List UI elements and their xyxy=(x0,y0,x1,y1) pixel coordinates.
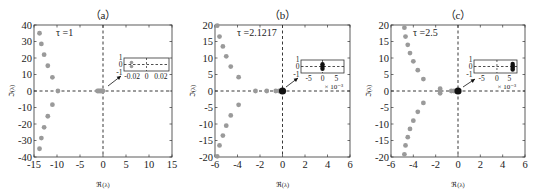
eigenvalue-point xyxy=(45,114,50,119)
eigenvalue-point xyxy=(37,31,42,36)
tau-annotation: τ =1 xyxy=(56,27,73,38)
y-tick-label: 0 xyxy=(384,86,389,97)
eigenvalue-point xyxy=(236,75,241,80)
inset-y-tick-label: -1 xyxy=(116,68,122,77)
y-tick-label: 0 xyxy=(208,86,213,97)
x-tick-label: 6 xyxy=(347,159,352,170)
y-axis-label: ℑ(λ) xyxy=(8,85,16,97)
eigenvalue-point xyxy=(220,133,225,138)
eigenvalue-point xyxy=(101,89,106,94)
inset-point xyxy=(130,65,134,69)
y-tick-label: 10 xyxy=(379,53,390,64)
eigenvalue-point xyxy=(264,89,269,94)
x-tick-label: 2 xyxy=(478,159,483,170)
tau-annotation: τ =2.1217 xyxy=(237,27,277,38)
y-tick-label: 10 xyxy=(22,69,33,80)
inset-x-tick-label: 0.02 xyxy=(154,72,167,81)
x-tick-label: 10 xyxy=(144,159,155,170)
eigenvalue-point xyxy=(411,118,416,123)
panel-label: （a） xyxy=(90,9,117,21)
x-tick-label: -4 xyxy=(409,159,418,170)
y-axis-label: ℑ(λ) xyxy=(365,85,373,97)
y-tick-label: 5 xyxy=(384,69,389,80)
eigenvalue-point xyxy=(56,89,61,94)
eigenvalue-point xyxy=(253,89,258,94)
eigenvalue-point xyxy=(228,64,233,69)
x-axis-label: ℜ(λ) xyxy=(276,181,289,189)
eigenvalue-point xyxy=(405,135,410,140)
eigenvalue-point xyxy=(217,143,222,148)
eigenvalue-point xyxy=(42,52,47,57)
x-tick-label: -5 xyxy=(76,159,85,170)
eigenvalue-point xyxy=(217,34,222,39)
eigenvalue-point xyxy=(39,42,44,47)
inset-exponent-label: × 10⁻³ xyxy=(325,83,344,91)
eigenvalue-point xyxy=(415,109,420,114)
eigenvalue-point xyxy=(220,44,225,49)
y-tick-label: -15 xyxy=(199,135,213,146)
inset-y-tick-label: -1 xyxy=(293,70,299,79)
eigenvalue-point xyxy=(50,102,55,107)
arrowhead-icon xyxy=(471,79,475,83)
chart-panel-b: -6-4-20246-20-15-10-505101520（b）τ =2.121… xyxy=(189,9,353,189)
y-tick-label: -30 xyxy=(18,135,32,146)
inset-y-tick-label: -1 xyxy=(466,70,472,79)
x-tick-label: 5 xyxy=(123,159,128,170)
tau-annotation: τ =2.5 xyxy=(413,27,438,38)
chart-panel-a: -15-10-5051015-40-30-20-10010203040（a）τ … xyxy=(8,9,177,189)
eigenvalue-point xyxy=(215,23,220,28)
x-tick-label: 2 xyxy=(302,159,307,170)
y-tick-label: -20 xyxy=(375,152,389,163)
y-tick-label: 10 xyxy=(203,53,214,64)
inset-x-tick-label: -5 xyxy=(479,74,485,83)
inset-x-tick-label: 5 xyxy=(334,74,338,83)
inset-exponent-label: × 10⁻³ xyxy=(498,83,517,91)
y-tick-label: -20 xyxy=(199,152,213,163)
x-tick-label: -4 xyxy=(233,159,242,170)
eigenvalue-point-dark xyxy=(454,87,461,94)
eigenvalue-point xyxy=(45,63,50,68)
chart-panel-c: -6-4-20246-20-15-10-505101520（c）τ =2.5ℜ(… xyxy=(365,9,528,189)
y-tick-label: -40 xyxy=(18,152,32,163)
panel-label: （b） xyxy=(269,9,297,21)
y-tick-label: 15 xyxy=(203,36,214,47)
eigenvalue-point xyxy=(408,51,413,56)
inset-x-tick-label: 0 xyxy=(145,72,149,81)
y-tick-label: -15 xyxy=(375,135,389,146)
eigenvalue-point xyxy=(405,42,410,47)
y-tick-label: 20 xyxy=(22,53,33,64)
eigenvalue-point xyxy=(421,77,426,82)
inset-point xyxy=(511,67,515,71)
eigenvalue-point xyxy=(228,113,233,118)
inset-point xyxy=(320,67,324,71)
eigenvalue-point xyxy=(37,146,42,151)
x-axis-label: ℜ(λ) xyxy=(96,181,109,189)
eigenvalue-point xyxy=(403,34,408,39)
eigenvalue-point xyxy=(224,54,229,59)
x-tick-label: 0 xyxy=(280,159,285,170)
eigenvalue-point xyxy=(403,143,408,148)
inset-x-tick-label: 5 xyxy=(507,74,511,83)
x-tick-label: 15 xyxy=(167,159,178,170)
y-tick-label: -10 xyxy=(375,119,389,130)
y-tick-label: -10 xyxy=(18,102,32,113)
eigenvalue-point xyxy=(438,91,443,96)
x-tick-label: 6 xyxy=(522,159,527,170)
panel-label: （c） xyxy=(445,9,472,21)
x-tick-label: -2 xyxy=(256,159,265,170)
x-tick-label: 0 xyxy=(100,159,105,170)
eigenvalue-point xyxy=(236,102,241,107)
y-tick-label: -5 xyxy=(380,102,389,113)
eigenvalue-point xyxy=(215,154,220,159)
y-tick-label: 20 xyxy=(203,20,214,31)
eigenvalue-point xyxy=(402,25,407,30)
y-tick-label: 0 xyxy=(27,86,32,97)
eigenvalue-point xyxy=(42,125,47,130)
eigenvalue-point xyxy=(39,136,44,141)
x-tick-label: -2 xyxy=(431,159,440,170)
y-tick-label: 30 xyxy=(22,36,33,47)
y-tick-label: -10 xyxy=(199,119,213,130)
eigenvalue-point xyxy=(224,123,229,128)
y-tick-label: -20 xyxy=(18,119,32,130)
y-tick-label: 40 xyxy=(22,20,33,31)
